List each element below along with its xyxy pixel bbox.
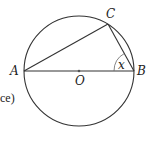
label-c: C — [106, 7, 115, 21]
cut-off-text: ce) — [0, 91, 15, 105]
angle-label-x: x — [118, 58, 125, 72]
label-b: B — [136, 64, 146, 78]
label-a: A — [9, 64, 19, 78]
chord-ac — [24, 24, 108, 71]
center-point-o — [78, 70, 81, 73]
label-o: O — [75, 74, 85, 88]
geometry-diagram: A B C O x ce) — [0, 0, 153, 142]
